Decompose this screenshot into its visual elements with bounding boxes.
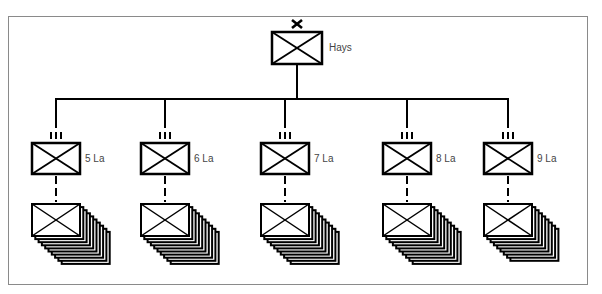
hq-label: Hays: [329, 42, 352, 53]
subunit-stack-front-icon: [261, 204, 309, 236]
unit-infantry-symbol-icon: [484, 143, 532, 174]
unit-label: 8 La: [436, 153, 455, 164]
subunit-stack-front-icon: [32, 204, 80, 236]
subunit-stack-front-icon: [141, 204, 189, 236]
unit-label: 9 La: [537, 153, 556, 164]
subunit-stack-front-icon: [383, 204, 431, 236]
hq-infantry-symbol-icon: [272, 32, 322, 64]
subunit-stack-front-icon: [484, 204, 532, 236]
unit-label: 7 La: [314, 153, 333, 164]
unit-label: 5 La: [85, 153, 104, 164]
unit-infantry-symbol-icon: [383, 143, 431, 174]
unit-label: 6 La: [194, 153, 213, 164]
org-chart-diagram: [0, 0, 602, 294]
unit-infantry-symbol-icon: [261, 143, 309, 174]
unit-infantry-symbol-icon: [32, 143, 80, 174]
unit-infantry-symbol-icon: [141, 143, 189, 174]
